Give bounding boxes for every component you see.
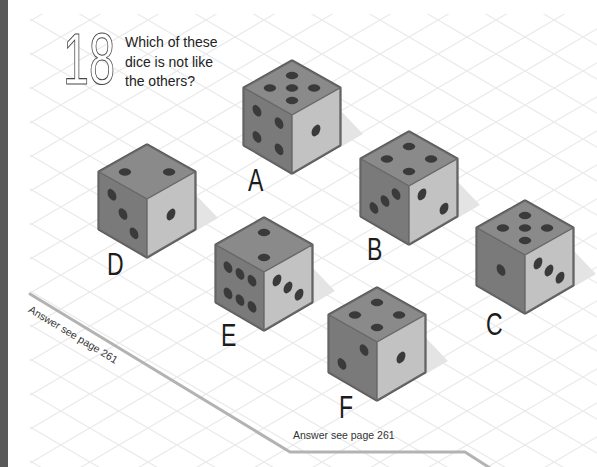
grid-line	[0, 0, 597, 5]
question-line: the others?	[125, 72, 218, 92]
question-line: dice is not like	[125, 53, 218, 73]
die-label-f: F	[339, 391, 353, 423]
die-c	[475, 199, 597, 317]
die-d	[97, 143, 221, 261]
die-d-graphic	[97, 143, 221, 261]
question-text: Which of these dice is not like the othe…	[125, 33, 218, 92]
die-shadow	[572, 249, 596, 288]
question-line: Which of these	[125, 33, 218, 53]
puzzle-number: 18	[60, 28, 120, 90]
die-a-graphic	[242, 59, 366, 177]
die-shadow	[424, 336, 448, 375]
die-label-b: B	[367, 233, 382, 265]
die-label-d: D	[107, 248, 124, 280]
die-label-a: A	[248, 164, 263, 196]
die-f	[327, 286, 451, 404]
die-f-graphic	[327, 286, 451, 404]
puzzle-number-text: 18	[63, 28, 115, 90]
die-label-e: E	[221, 319, 236, 351]
die-label-c: C	[486, 308, 503, 340]
page-edge-strip	[0, 0, 8, 467]
die-a	[242, 59, 366, 177]
grid-line	[0, 0, 597, 11]
answer-reference: Answer see page 261	[293, 429, 395, 441]
die-c-graphic	[475, 199, 597, 317]
